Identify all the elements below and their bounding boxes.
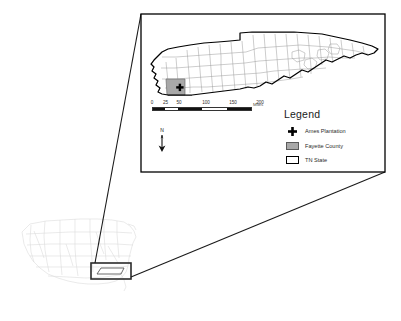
scale-segment-1 [153, 108, 165, 110]
north-arrow: N [153, 127, 171, 133]
legend-label-tn-state: TN State [305, 157, 327, 163]
scale-segment-3 [227, 108, 252, 110]
gray-fill-swatch-icon [284, 142, 300, 150]
legend-item-ames-plantation: Ames Plantation [284, 125, 376, 137]
legend-label-ames-plantation: Ames Plantation [305, 128, 346, 134]
scale-tick-150: 150 [229, 100, 237, 105]
white-outline-swatch-icon [284, 156, 300, 164]
scale-tick-0: 0 [151, 100, 154, 105]
scale-tick-25: 25 [163, 100, 168, 105]
legend-label-fayette-county: Fayette County [305, 143, 343, 149]
legend-title: Legend [284, 108, 376, 120]
legend-item-fayette-county: Fayette County [284, 140, 376, 152]
tn-highlight-box [91, 263, 131, 279]
plus-marker-icon [284, 127, 300, 136]
scale-bar: 0 25 50 100 150 200 Miles [152, 100, 260, 111]
scale-tick-50: 50 [176, 100, 181, 105]
map-figure: 0 25 50 100 150 200 Miles N Legend A [0, 0, 401, 321]
scale-bar-ticks: 0 25 50 100 150 200 [152, 100, 260, 107]
inset-us-map [22, 219, 136, 291]
scale-tick-100: 100 [202, 100, 210, 105]
tn-inset-shape [97, 268, 124, 274]
scale-segment-2 [178, 108, 203, 110]
north-arrow-label: N [153, 127, 171, 133]
leader-line-upper [95, 14, 141, 263]
scale-bar-unit: Miles [253, 102, 263, 107]
legend-item-tn-state: TN State [284, 154, 376, 166]
leader-line-lower [131, 172, 385, 277]
legend: Legend Ames Plantation Fayette County TN… [284, 108, 376, 169]
scale-bar-segments [152, 107, 252, 111]
